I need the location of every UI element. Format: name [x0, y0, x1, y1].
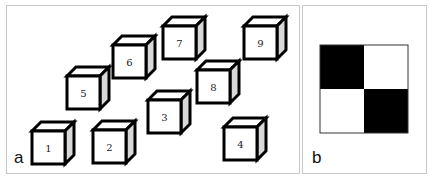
- cube-1: 1: [32, 122, 74, 164]
- checkerboard: [320, 45, 408, 133]
- cube-2: 2: [93, 121, 135, 163]
- cube-4: 4: [224, 118, 266, 160]
- checker-cell-black: [320, 45, 364, 89]
- cube-3: 3: [148, 91, 190, 133]
- cube-number-label: 6: [126, 57, 132, 68]
- cube-6: 6: [113, 36, 155, 78]
- cube-number-label: 2: [106, 142, 112, 153]
- cube-5: 5: [67, 67, 109, 109]
- cube-9: 9: [244, 17, 286, 59]
- cube-number-label: 7: [176, 38, 182, 49]
- panel-b-label: b: [312, 148, 321, 168]
- checker-cell-white: [364, 45, 408, 89]
- checker-cell-white: [320, 89, 364, 133]
- cube-number-label: 9: [257, 38, 263, 49]
- cube-number-label: 3: [161, 112, 167, 123]
- cubes-drawing: 123456789: [0, 0, 430, 179]
- cube-8: 8: [197, 61, 239, 103]
- cube-7: 7: [163, 17, 205, 59]
- cube-number-label: 4: [237, 139, 243, 150]
- cube-number-label: 8: [210, 82, 216, 93]
- panel-a-label: a: [14, 148, 23, 168]
- cube-number-label: 1: [45, 143, 51, 154]
- checker-cell-black: [364, 89, 408, 133]
- cube-number-label: 5: [80, 88, 86, 99]
